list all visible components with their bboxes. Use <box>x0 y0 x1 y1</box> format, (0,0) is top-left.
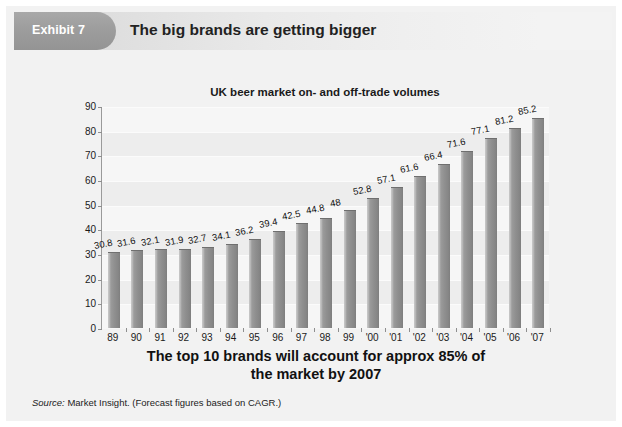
chart-bar <box>296 223 308 328</box>
source-note: Source: Market Insight. (Forecast figure… <box>32 397 281 408</box>
chart-plot-area: 30.831.632.131.932.734.136.239.442.544.8… <box>101 107 549 329</box>
y-axis-tick-label: 20 <box>70 275 96 285</box>
y-axis-tick-label: 90 <box>70 102 96 112</box>
chart-bar <box>532 118 544 328</box>
chart-title: UK beer market on- and off-trade volumes <box>101 86 549 98</box>
gridline <box>102 206 549 207</box>
grid-band <box>102 156 549 181</box>
chart-bar <box>391 187 403 328</box>
chart-bar <box>202 247 214 328</box>
y-axis-tick <box>98 181 102 182</box>
chart-bar <box>131 250 143 328</box>
chart-annotation-line1: The top 10 brands will account for appro… <box>76 347 556 365</box>
chart-annotation-line2: the market by 2007 <box>76 365 556 383</box>
y-axis-tick-label: 30 <box>70 250 96 260</box>
source-label: Source: <box>32 397 65 408</box>
y-axis-tick-label: 60 <box>70 176 96 186</box>
chart-bar <box>155 249 167 328</box>
bar-value-label: 31.9 <box>164 235 184 248</box>
exhibit-title: The big brands are getting bigger <box>130 21 376 39</box>
y-axis-labels: 0102030405060708090 <box>66 107 96 329</box>
y-axis-tick-label: 10 <box>70 299 96 309</box>
bar-value-label: 30.8 <box>93 238 113 251</box>
chart-bar <box>273 231 285 328</box>
chart-annotation: The top 10 brands will account for appro… <box>76 347 556 383</box>
exhibit-number-label: Exhibit 7 <box>32 23 85 37</box>
bar-value-label: 32.7 <box>187 233 207 246</box>
bar-value-label: 32.1 <box>140 234 160 247</box>
bar-value-label: 71.6 <box>447 137 467 150</box>
chart-bar <box>461 151 473 328</box>
chart-bar <box>108 252 120 328</box>
y-axis-tick <box>98 304 102 305</box>
chart-bar <box>226 244 238 328</box>
gridline <box>102 181 549 182</box>
y-axis-tick <box>98 156 102 157</box>
y-axis-tick <box>98 206 102 207</box>
y-axis-tick-label: 80 <box>70 127 96 137</box>
chart-bar <box>485 138 497 328</box>
x-axis-tick-label: '07 <box>522 332 552 343</box>
bar-value-label: 34.1 <box>211 230 231 243</box>
y-axis-tick-label: 40 <box>70 225 96 235</box>
bar-value-label: 48 <box>329 197 341 208</box>
chart-bar <box>367 198 379 328</box>
y-axis-tick <box>98 280 102 281</box>
y-axis-tick <box>98 132 102 133</box>
y-axis-tick <box>98 107 102 108</box>
chart-bar <box>509 128 521 328</box>
y-axis-tick-label: 70 <box>70 151 96 161</box>
chart-bar <box>320 218 332 329</box>
y-axis-tick <box>98 255 102 256</box>
bar-value-label: 52.8 <box>352 183 372 196</box>
chart-bar <box>414 176 426 328</box>
gridline <box>102 156 549 157</box>
bar-value-label: 36.2 <box>234 224 254 237</box>
bar-value-label: 31.6 <box>117 236 137 249</box>
exhibit-slide: Exhibit 7 The big brands are getting big… <box>0 0 622 427</box>
y-axis-tick-label: 50 <box>70 201 96 211</box>
chart-bar <box>344 210 356 328</box>
chart-bar <box>438 164 450 328</box>
y-axis-tick <box>98 329 102 330</box>
bar-value-label: 77.1 <box>470 123 490 136</box>
y-axis-tick-label: 0 <box>70 324 96 334</box>
chart-bar <box>179 249 191 328</box>
chart-bar <box>249 239 261 328</box>
y-axis-tick <box>98 230 102 231</box>
source-text: Market Insight. (Forecast figures based … <box>65 397 281 408</box>
bar-value-label: 57.1 <box>376 173 396 186</box>
gridline <box>102 107 549 108</box>
exhibit-header-banner: Exhibit 7 The big brands are getting big… <box>14 12 612 50</box>
